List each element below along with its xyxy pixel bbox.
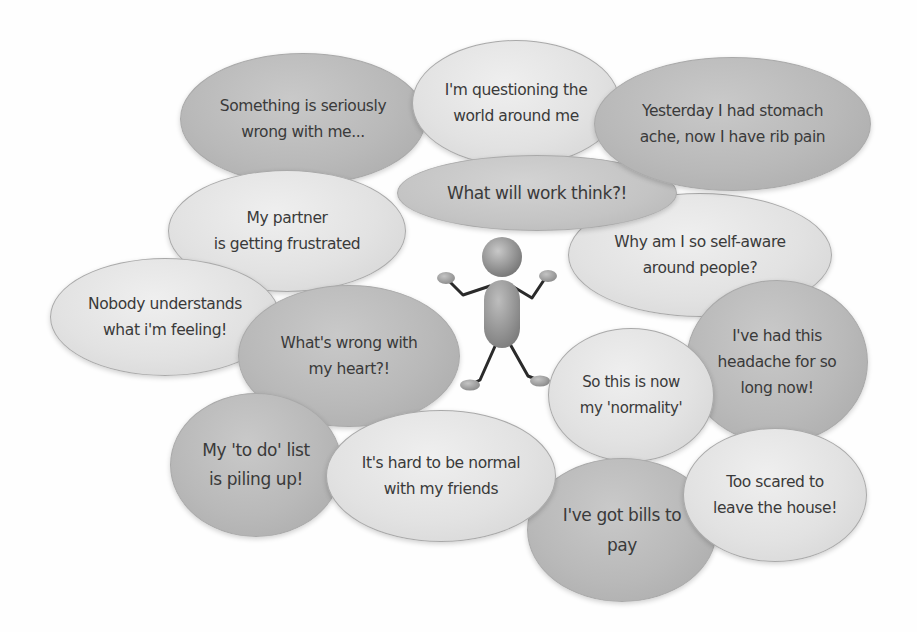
bubble-questioning-world: I'm questioning the world around me (412, 40, 620, 166)
worry-bubbles-diagram: I'm questioning the world around me Some… (0, 0, 917, 632)
bubble-todo-list: My 'to do' list is piling up! (170, 393, 342, 537)
bubble-text: My partner is getting frustrated (204, 205, 370, 257)
bubble-text: Yesterday I had stomach ache, now I have… (630, 98, 836, 150)
bubble-headache: I've had this headache for so long now! (686, 280, 868, 444)
bubble-text: It's hard to be normal with my friends (352, 450, 530, 502)
bubble-text: I've got bills to pay (553, 500, 691, 560)
bubble-text: My 'to do' list is piling up! (192, 436, 320, 494)
left-foot (460, 380, 480, 391)
bubble-text: I'm questioning the world around me (435, 77, 598, 129)
bubble-text: Something is seriously wrong with me... (210, 93, 396, 145)
bubble-normality: So this is now my 'normality' (548, 328, 714, 462)
head (482, 237, 522, 277)
right-leg (510, 344, 538, 380)
bubble-text: What will work think?! (437, 180, 637, 206)
right-foot (530, 376, 550, 387)
bubble-text: I've had this headache for so long now! (708, 323, 847, 401)
bubble-too-scared: Too scared to leave the house! (683, 428, 867, 562)
right-hand (539, 270, 557, 282)
bubble-stomach-rib-pain: Yesterday I had stomach ache, now I have… (594, 57, 871, 191)
bubble-text: What's wrong with my heart?! (271, 330, 428, 382)
bubble-hard-to-be-normal: It's hard to be normal with my friends (326, 410, 556, 542)
left-hand (437, 272, 455, 284)
bubble-text: Nobody understands what i'm feeling! (78, 291, 252, 343)
bubble-text: Too scared to leave the house! (703, 469, 847, 521)
left-leg (472, 344, 496, 384)
bubble-text: So this is now my 'normality' (570, 369, 692, 421)
bubble-something-wrong: Something is seriously wrong with me... (180, 53, 426, 185)
bubble-text: Why am I so self-aware around people? (604, 229, 795, 281)
body (484, 280, 520, 348)
